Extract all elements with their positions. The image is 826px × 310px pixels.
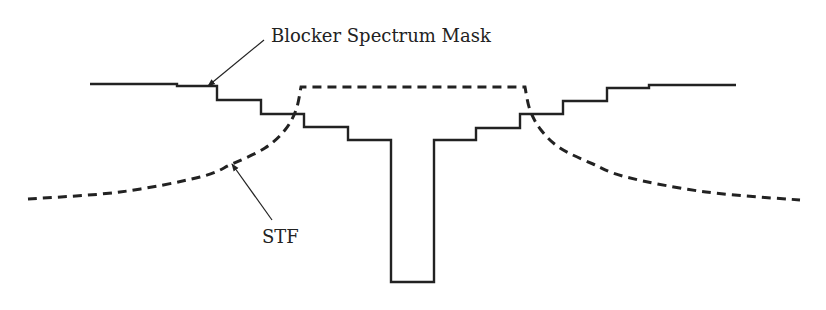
blocker-spectrum-mask-line bbox=[90, 84, 736, 282]
stf-label: STF bbox=[262, 226, 299, 247]
stf-arrow-icon bbox=[232, 164, 272, 220]
blocker-mask-label: Blocker Spectrum Mask bbox=[271, 25, 492, 46]
blocker-mask-stf-diagram: Blocker Spectrum Mask STF bbox=[0, 0, 826, 310]
stf-curve bbox=[28, 87, 800, 200]
blocker-mask-arrow-icon bbox=[208, 40, 264, 86]
